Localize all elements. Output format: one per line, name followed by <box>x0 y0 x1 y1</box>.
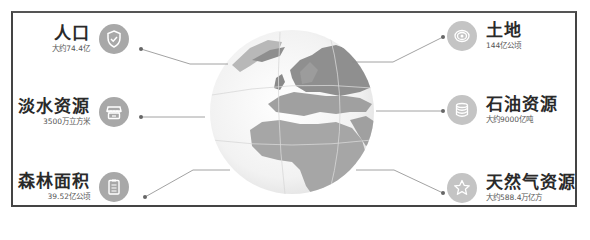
item-value: 144亿公顷 <box>486 40 521 51</box>
connector-dot <box>143 195 147 199</box>
connector-dot <box>139 115 143 119</box>
item-freshwater: 淡水资源 3500万立方米 <box>18 96 129 127</box>
item-title: 土地 <box>486 20 522 40</box>
item-value: 3500万立方米 <box>43 116 90 127</box>
connector-dot <box>139 47 143 51</box>
clipboard-icon <box>99 172 129 202</box>
connector-dot <box>441 109 445 113</box>
item-land: 土地 144亿公顷 <box>447 20 522 51</box>
storefront-icon <box>99 97 129 127</box>
item-value: 大约74.4亿 <box>52 43 90 54</box>
item-title: 人口 <box>54 23 90 43</box>
connector-gas <box>356 170 443 193</box>
item-forest: 森林面积 39.52亿公顷 <box>18 171 129 202</box>
connector-land <box>352 37 443 62</box>
item-title: 石油资源 <box>486 94 558 114</box>
item-value: 大约588.4万亿方 <box>486 192 542 203</box>
connector-dot <box>441 191 445 195</box>
item-title: 天然气资源 <box>486 172 576 192</box>
item-oil: 石油资源 大约9000亿吨 <box>447 94 558 125</box>
item-title: 淡水资源 <box>18 96 90 116</box>
item-value: 大约9000亿吨 <box>486 114 533 125</box>
connector-population <box>141 49 228 64</box>
target-rings-icon <box>447 21 477 51</box>
star-icon <box>447 173 477 203</box>
item-population: 人口 大约74.4亿 <box>52 23 129 54</box>
item-title: 森林面积 <box>18 171 90 191</box>
connector-forest <box>145 170 230 197</box>
shield-check-icon <box>99 24 129 54</box>
database-stack-icon <box>447 95 477 125</box>
item-gas: 天然气资源 大约588.4万亿方 <box>447 172 576 203</box>
item-value: 39.52亿公顷 <box>48 191 90 202</box>
connector-dot <box>441 35 445 39</box>
